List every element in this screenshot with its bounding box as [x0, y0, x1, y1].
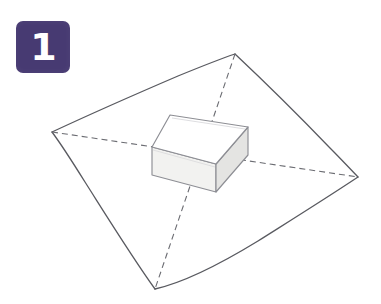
diagram-canvas: 1: [0, 0, 381, 304]
step-number-badge: 1: [16, 21, 70, 73]
sheet-edge-top-right: [235, 54, 358, 177]
sheet-edge-bottom-right: [155, 177, 358, 289]
step-number-label: 1: [30, 28, 55, 66]
gift-box: [152, 115, 248, 192]
sheet-edge-bottom-left: [52, 132, 155, 289]
